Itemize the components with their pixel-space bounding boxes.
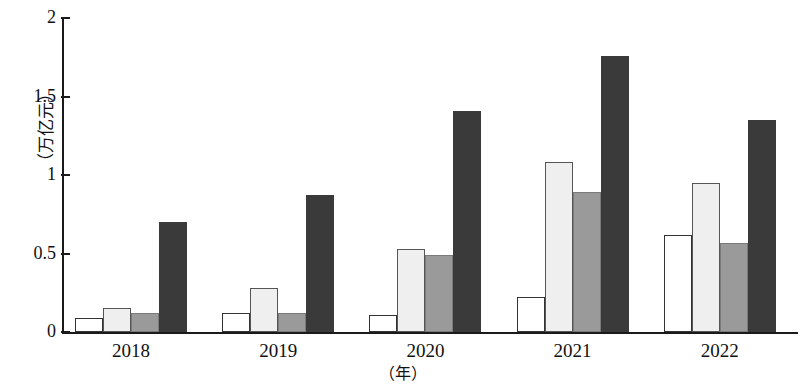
y-tick-label-2: 2 bbox=[10, 8, 56, 26]
x-axis-label-2020: 2020 bbox=[365, 340, 485, 362]
y-tick-1 bbox=[61, 174, 70, 176]
bar-2020-series-4 bbox=[453, 111, 481, 332]
bar-2018-series-3 bbox=[131, 313, 159, 332]
bar-2021-series-4 bbox=[601, 56, 629, 332]
x-axis-label-2018: 2018 bbox=[71, 340, 191, 362]
bar-2022-series-1 bbox=[664, 235, 692, 332]
x-axis-label-2019: 2019 bbox=[218, 340, 338, 362]
bar-2020-series-2 bbox=[397, 249, 425, 332]
bar-group-2021 bbox=[517, 18, 629, 332]
bar-2018-series-4 bbox=[159, 222, 187, 332]
x-axis-title: （年） bbox=[0, 364, 806, 384]
y-tick-0 bbox=[61, 331, 70, 333]
bar-group-2020 bbox=[369, 18, 481, 332]
bar-2022-series-2 bbox=[692, 183, 720, 332]
y-tick-2 bbox=[61, 17, 70, 19]
bar-chart: （万亿元） 21.510.50 20182019202020212022 （年） bbox=[0, 0, 806, 388]
y-tick-label-1: 1 bbox=[10, 165, 56, 183]
y-tick-label-1.5: 1.5 bbox=[10, 87, 56, 105]
bar-2020-series-3 bbox=[425, 255, 453, 332]
y-tick-label-0: 0 bbox=[10, 322, 56, 340]
bar-2020-series-1 bbox=[369, 315, 397, 332]
bar-2021-series-2 bbox=[545, 162, 573, 332]
bar-group-2019 bbox=[222, 18, 334, 332]
bar-2022-series-4 bbox=[748, 120, 776, 332]
y-tick-label-0.5: 0.5 bbox=[10, 244, 56, 262]
bar-2019-series-2 bbox=[250, 288, 278, 332]
bar-2018-series-1 bbox=[75, 318, 103, 332]
bar-2019-series-3 bbox=[278, 313, 306, 332]
bar-2021-series-3 bbox=[573, 192, 601, 332]
bar-2019-series-4 bbox=[306, 195, 334, 332]
bar-2021-series-1 bbox=[517, 297, 545, 332]
plot-area: 21.510.50 bbox=[62, 18, 798, 332]
y-tick-0.5 bbox=[61, 253, 70, 255]
bar-group-2022 bbox=[664, 18, 776, 332]
bar-2019-series-1 bbox=[222, 313, 250, 332]
x-axis-label-2021: 2021 bbox=[513, 340, 633, 362]
bar-2022-series-3 bbox=[720, 243, 748, 332]
x-axis-label-2022: 2022 bbox=[660, 340, 780, 362]
x-axis-line bbox=[62, 332, 798, 334]
bar-2018-series-2 bbox=[103, 308, 131, 332]
y-tick-1.5 bbox=[61, 96, 70, 98]
bar-group-2018 bbox=[75, 18, 187, 332]
